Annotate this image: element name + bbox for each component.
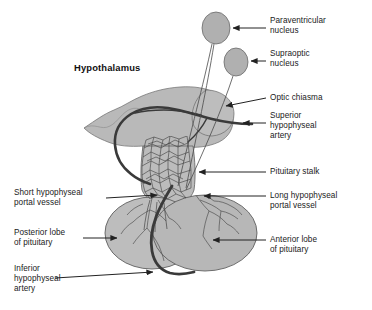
label-posterior-lobe-of-pituitary: Posterior lobe of pituitary bbox=[14, 228, 65, 248]
label-short-hypophyseal-portal-vessel: Short hypophyseal portal vessel bbox=[14, 188, 83, 208]
label-long-hypophyseal-portal-vessel: Long hypophyseal portal vessel bbox=[270, 191, 337, 211]
label-pituitary-stalk: Pituitary stalk bbox=[270, 167, 319, 177]
label-supraoptic-nucleus: Supraoptic nucleus bbox=[270, 49, 310, 69]
label-optic-chiasma: Optic chiasma bbox=[270, 93, 323, 103]
label-superior-hypophyseal-artery: Superior hypophyseal artery bbox=[270, 111, 317, 142]
leader-inferior-hypophyseal-artery bbox=[55, 272, 153, 278]
paraventricular-nucleus-shape bbox=[202, 12, 230, 44]
figure-canvas: Hypothalamus Paraventricular nucleus Sup… bbox=[0, 0, 372, 310]
label-paraventricular-nucleus: Paraventricular nucleus bbox=[270, 16, 326, 36]
supraoptic-nucleus-shape bbox=[224, 48, 248, 76]
label-inferior-hypophyseal-artery: Inferior hypophyseal artery bbox=[14, 264, 61, 295]
leader-optic-chiasma bbox=[226, 98, 266, 106]
label-anterior-lobe-of-pituitary: Anterior lobe of pituitary bbox=[270, 235, 317, 255]
hypothalamus-title-label: Hypothalamus bbox=[74, 62, 140, 73]
